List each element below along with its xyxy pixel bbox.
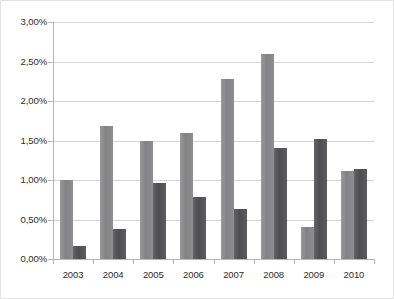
plot-area [53, 22, 374, 259]
x-tick-mark [173, 259, 174, 264]
bar-series-b-2008 [274, 148, 287, 259]
bar-series-b-2009 [314, 139, 327, 259]
x-axis-tick-label-2010: 2010 [334, 269, 374, 280]
y-tick-mark [48, 22, 53, 23]
bar-series-b-2010 [354, 169, 367, 259]
x-axis-tick-label-2005: 2005 [133, 269, 173, 280]
y-tick-mark [48, 141, 53, 142]
x-tick-mark [334, 259, 335, 264]
x-tick-mark [294, 259, 295, 264]
y-axis-tick-label: 3,00% [21, 16, 47, 27]
x-axis-tick-label-2009: 2009 [294, 269, 334, 280]
bar-group-2006 [173, 22, 213, 259]
x-tick-mark [53, 259, 54, 264]
x-tick-mark [133, 259, 134, 264]
y-tick-mark [48, 220, 53, 221]
bar-group-2007 [214, 22, 254, 259]
bar-group-2004 [93, 22, 133, 259]
x-axis-tick-label-2006: 2006 [173, 269, 213, 280]
y-axis-tick-label: 1,50% [21, 135, 47, 146]
y-tick-mark [48, 101, 53, 102]
bar-series-b-2003 [73, 246, 86, 259]
y-tick-mark [48, 62, 53, 63]
bar-series-a-2007 [221, 79, 234, 259]
y-axis-line [53, 22, 54, 260]
bar-group-2003 [53, 22, 93, 259]
x-axis-tick-label-2007: 2007 [214, 269, 254, 280]
bar-series-a-2010 [341, 171, 354, 259]
y-axis-tick-label: 2,50% [21, 56, 47, 67]
bar-series-b-2004 [113, 229, 126, 259]
bar-series-a-2004 [100, 126, 113, 260]
bar-series-a-2005 [140, 141, 153, 260]
x-tick-mark [254, 259, 255, 264]
bar-group-2005 [133, 22, 173, 259]
x-tick-mark [374, 259, 375, 264]
bar-series-a-2006 [180, 133, 193, 259]
x-axis-tick-label-2004: 2004 [93, 269, 133, 280]
x-tick-mark [214, 259, 215, 264]
bar-series-a-2003 [60, 180, 73, 259]
y-axis-tick-label: 0,00% [21, 253, 47, 264]
bar-series-b-2005 [153, 183, 166, 259]
bar-series-a-2008 [261, 54, 274, 259]
y-axis-tick-label: 2,00% [21, 95, 47, 106]
bar-group-2008 [254, 22, 294, 259]
bar-series-a-2009 [301, 227, 314, 259]
bar-series-b-2006 [193, 197, 206, 259]
bar-group-2009 [294, 22, 334, 259]
x-axis-tick-label-2003: 2003 [53, 269, 93, 280]
bar-series-b-2007 [234, 209, 247, 259]
y-tick-mark [48, 180, 53, 181]
x-axis-tick-label-2008: 2008 [254, 269, 294, 280]
x-tick-mark [93, 259, 94, 264]
bar-group-2010 [334, 22, 374, 259]
bar-chart: 0,00%0,50%1,00%1,50%2,00%2,50%3,00%20032… [0, 0, 394, 299]
y-axis-tick-label: 1,00% [21, 174, 47, 185]
y-axis-tick-label: 0,50% [21, 214, 47, 225]
